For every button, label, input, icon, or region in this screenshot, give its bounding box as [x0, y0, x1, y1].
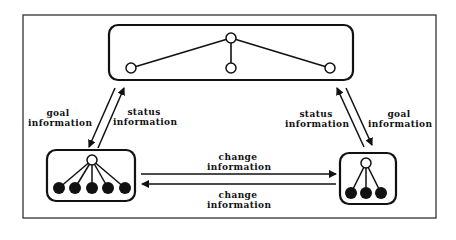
top-root-node — [226, 33, 236, 43]
right-unit — [340, 153, 396, 204]
label-line: information — [368, 119, 430, 129]
label-line: change — [207, 152, 269, 162]
top-unit — [109, 25, 353, 80]
left-leaf-node — [119, 182, 131, 194]
label-line: information — [285, 119, 347, 129]
top-middle-node — [226, 63, 236, 73]
label-line: information — [28, 118, 88, 128]
label-line: status — [285, 109, 347, 119]
label-line: information — [113, 117, 175, 127]
label-line: information — [207, 162, 269, 172]
right-status-label: status information — [285, 109, 347, 129]
change-bottom-label: change information — [207, 190, 269, 210]
change-top-label: change information — [207, 152, 269, 172]
left-leaf-node — [86, 182, 98, 194]
left-goal-label: goal information — [28, 108, 88, 128]
left-leaf-node — [69, 182, 81, 194]
right-leaf-node — [345, 187, 357, 199]
top-right-node — [325, 63, 335, 73]
label-line: goal — [28, 108, 88, 118]
label-line: information — [207, 200, 269, 210]
label-line: goal — [368, 109, 430, 119]
left-unit — [47, 150, 135, 201]
label-line: change — [207, 190, 269, 200]
right-leaf-node — [375, 187, 387, 199]
left-leaf-node — [53, 182, 65, 194]
right-goal-label: goal information — [368, 109, 430, 129]
left-root-node — [87, 155, 97, 165]
top-left-node — [126, 63, 136, 73]
label-line: status — [113, 107, 175, 117]
right-root-node — [361, 158, 371, 168]
left-leaf-node — [102, 182, 114, 194]
right-leaf-node — [360, 187, 372, 199]
left-status-label: status information — [113, 107, 175, 127]
